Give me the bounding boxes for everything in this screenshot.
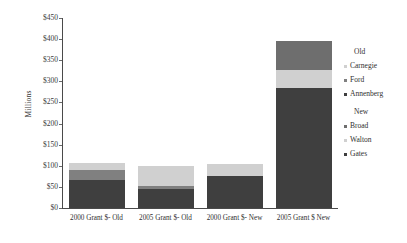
x-axis-line <box>62 208 338 209</box>
y-axis-tick-label: $200 <box>14 120 58 128</box>
bar-segment-annenberg[interactable] <box>138 189 194 208</box>
legend-label: Ford <box>350 76 364 84</box>
legend-item-broad[interactable]: Broad <box>344 122 406 130</box>
bar-segment-ford[interactable] <box>69 170 125 180</box>
bar-segment-walton[interactable] <box>207 164 263 177</box>
bar-segment-gates[interactable] <box>207 176 263 208</box>
y-axis-tick-mark <box>59 208 62 209</box>
y-axis-tick-mark <box>59 102 62 103</box>
y-axis-tick-mark <box>59 124 62 125</box>
stacked-bar-chart: Millions $0$50$100$150$200$250$300$350$4… <box>0 0 407 243</box>
bar-segment-carnegie[interactable] <box>138 166 194 186</box>
x-axis-tick-label: 2005 Grant $ New <box>269 214 338 223</box>
legend-label: Annenberg <box>350 90 383 98</box>
legend-swatch-icon <box>344 79 347 82</box>
plot-area: $0$50$100$150$200$250$300$350$400$450 20… <box>62 18 338 210</box>
bar-1[interactable] <box>69 163 125 208</box>
y-axis-tick-label: $50 <box>14 183 58 191</box>
y-axis-tick-label: $300 <box>14 77 58 85</box>
chart-legend: OldCarnegieFordAnnenbergNewBroadWaltonGa… <box>344 48 406 164</box>
legend-swatch-icon <box>344 93 347 96</box>
legend-item-gates[interactable]: Gates <box>344 150 406 158</box>
legend-swatch-icon <box>344 125 347 128</box>
y-axis-tick-label: $100 <box>14 162 58 170</box>
x-axis-tick-label: 2000 Grant $- New <box>200 214 269 223</box>
x-axis-tick-label: 2005 Grant $- Old <box>131 214 200 223</box>
y-axis-tick-label: $150 <box>14 141 58 149</box>
bar-segment-carnegie[interactable] <box>69 163 125 170</box>
y-axis-tick-mark <box>59 81 62 82</box>
bar-4[interactable] <box>276 41 332 208</box>
legend-item-ford[interactable]: Ford <box>344 76 406 84</box>
bar-segment-gates[interactable] <box>276 88 332 208</box>
bar-3[interactable] <box>207 164 263 208</box>
legend-label: Walton <box>350 136 371 144</box>
y-axis-tick-label: $350 <box>14 56 58 64</box>
legend-label: Carnegie <box>350 62 377 70</box>
y-axis-tick-mark <box>59 187 62 188</box>
y-axis-tick-mark <box>59 39 62 40</box>
legend-label: Broad <box>350 122 368 130</box>
y-axis-tick-label: $250 <box>14 98 58 106</box>
bar-2[interactable] <box>138 166 194 208</box>
y-axis-tick-mark <box>59 60 62 61</box>
y-axis-tick-mark <box>59 166 62 167</box>
legend-swatch-icon <box>344 153 347 156</box>
bar-segment-broad[interactable] <box>276 41 332 69</box>
y-axis-tick-label: $0 <box>14 204 58 212</box>
y-axis-line <box>62 18 63 208</box>
y-axis-tick-label: $450 <box>14 14 58 22</box>
legend-label: Gates <box>350 150 367 158</box>
legend-swatch-icon <box>344 139 347 142</box>
legend-group-title-new: New <box>354 108 406 116</box>
y-axis-tick-mark <box>59 145 62 146</box>
legend-item-carnegie[interactable]: Carnegie <box>344 62 406 70</box>
bar-segment-annenberg[interactable] <box>69 180 125 208</box>
y-axis-tick-mark <box>59 18 62 19</box>
legend-item-walton[interactable]: Walton <box>344 136 406 144</box>
legend-group-title-old: Old <box>354 48 406 56</box>
bar-segment-walton[interactable] <box>276 70 332 88</box>
y-axis-tick-label: $400 <box>14 35 58 43</box>
legend-item-annenberg[interactable]: Annenberg <box>344 90 406 98</box>
x-axis-tick-label: 2000 Grant $- Old <box>62 214 131 223</box>
legend-swatch-icon <box>344 65 347 68</box>
